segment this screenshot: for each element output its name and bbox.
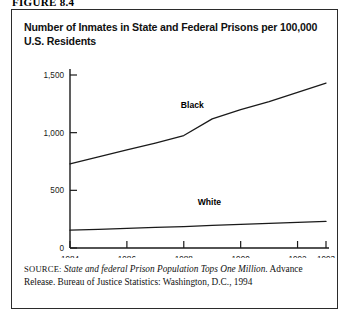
source-note: SOURCE: State and federal Prison Populat… [24,263,329,288]
y-axis-tick-group: 05001,0001,500 [44,71,78,253]
x-axis-tick-label: 1990 [232,255,251,258]
series-line-white [70,221,326,230]
x-axis-tick-label: 1992 [288,255,307,258]
source-title: State and federal Prison Population Tops… [64,264,268,274]
figure-number: FIGURE 8.4 [12,0,74,8]
series-line-black [70,83,326,164]
y-axis-tick-label: 0 [59,244,64,253]
chart-plot-area: 05001,0001,500 198419861988199019921993 … [12,53,339,258]
x-axis-tick-label: 1988 [175,255,194,258]
line-chart-svg: 05001,0001,500 198419861988199019921993 … [12,53,339,258]
figure-panel: Number of Inmates in State and Federal P… [11,9,338,309]
series-label-black: Black [181,100,204,110]
x-axis-tick-label: 1993 [317,255,336,258]
x-axis-tick-group: 198419861988199019921993 [61,241,336,258]
y-axis-tick-label: 500 [50,186,64,195]
y-axis-tick-label: 1,000 [44,129,65,138]
source-kicker: SOURCE: [24,264,62,274]
series-label-white: White [198,197,222,207]
x-axis-tick-label: 1984 [61,255,80,258]
series-annotation-group: BlackWhite [181,100,221,207]
chart-title: Number of Inmates in State and Federal P… [24,21,324,48]
figure-root: FIGURE 8.4 Number of Inmates in State an… [0,0,349,320]
x-axis-tick-label: 1986 [118,255,137,258]
y-axis-tick-label: 1,500 [44,71,65,80]
